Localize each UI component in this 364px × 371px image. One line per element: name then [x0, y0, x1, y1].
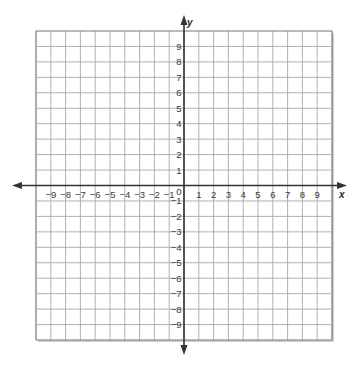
x-tick-label: 3 — [226, 189, 231, 200]
y-tick-label: −9 — [171, 319, 182, 330]
x-tick-label: 6 — [270, 189, 275, 200]
y-tick-label: 3 — [176, 134, 181, 145]
x-tick-label: −4 — [119, 189, 130, 200]
y-tick-label: −3 — [171, 226, 182, 237]
y-tick-label: 9 — [176, 41, 181, 52]
x-tick-label: 1 — [196, 189, 201, 200]
x-axis-label: x — [338, 189, 345, 200]
y-tick-label: 4 — [176, 118, 181, 129]
y-tick-label: −1 — [171, 195, 182, 206]
y-tick-label: 7 — [176, 72, 181, 83]
x-tick-label: −6 — [90, 189, 101, 200]
y-tick-label: −2 — [171, 211, 182, 222]
x-tick-label: 7 — [285, 189, 290, 200]
y-tick-label: −7 — [171, 288, 182, 299]
origin-label: 0 — [176, 186, 181, 197]
x-tick-label: 5 — [255, 189, 260, 200]
x-tick-label: −5 — [105, 189, 116, 200]
x-axis-left-arrow — [12, 182, 22, 189]
y-tick-label: 1 — [176, 165, 181, 176]
x-tick-label: −7 — [75, 189, 86, 200]
x-tick-label: −2 — [149, 189, 160, 200]
y-tick-label: −5 — [171, 257, 182, 268]
y-tick-label: −8 — [171, 304, 182, 315]
x-tick-label: 4 — [241, 189, 246, 200]
y-axis-label: y — [186, 17, 193, 28]
x-tick-label: 8 — [300, 189, 305, 200]
x-tick-label: −3 — [134, 189, 145, 200]
x-tick-label: −8 — [60, 189, 71, 200]
y-tick-label: 2 — [176, 149, 181, 160]
y-tick-label: 6 — [176, 87, 181, 98]
y-axis-down-arrow — [181, 345, 188, 355]
x-tick-label: 9 — [315, 189, 320, 200]
x-tick-label: 2 — [211, 189, 216, 200]
x-tick-label: −9 — [45, 189, 56, 200]
coordinate-plane: −9−8−7−6−5−4−3−2−1123456789 987654321−1−… — [0, 0, 364, 371]
y-tick-label: 8 — [176, 56, 181, 67]
y-tick-label: 5 — [176, 103, 181, 114]
y-tick-label: −4 — [171, 242, 182, 253]
y-tick-label: −6 — [171, 273, 182, 284]
